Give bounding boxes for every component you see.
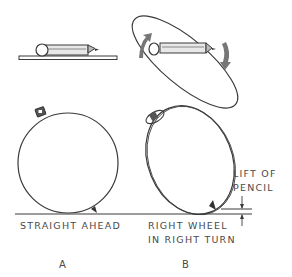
wheel-tilt-diagram [0,0,292,277]
label-straight-ahead: STRAIGHT AHEAD [20,219,121,233]
label-lift-line2: PENCIL [233,181,274,195]
label-right-wheel-line1: RIGHT WHEEL [148,219,228,233]
wheel-b-icon [130,92,251,228]
caption-a: A [59,259,66,270]
label-right-wheel-line2: IN RIGHT TURN [148,233,236,247]
wheel-a-icon [18,107,118,213]
label-lift-line1: LIFT OF [233,167,277,181]
pencil-flat-icon [19,44,117,60]
caption-b: B [182,259,189,270]
